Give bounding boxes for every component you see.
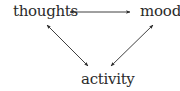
arrow-mood-activity	[111, 25, 153, 66]
node-thoughts: thoughts	[13, 4, 78, 19]
node-mood: mood	[140, 4, 180, 19]
node-activity: activity	[81, 72, 135, 87]
arrow-thoughts-activity	[47, 25, 88, 66]
